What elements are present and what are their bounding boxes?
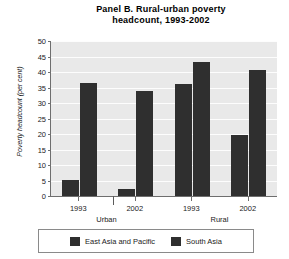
x-tick-label: 2002 xyxy=(239,204,256,213)
y-tick-label: 30 xyxy=(38,99,46,108)
y-tick-label: 15 xyxy=(38,145,46,154)
y-axis-title: Poverty headcount (per cent) xyxy=(16,37,23,187)
y-tick-label: 25 xyxy=(38,114,46,123)
legend-label-south-asia: South Asia xyxy=(186,237,222,246)
x-group-label: Urban xyxy=(96,215,116,224)
bar xyxy=(231,135,248,196)
bar xyxy=(249,70,266,196)
y-tick-label: 10 xyxy=(38,161,46,170)
x-tick-mark xyxy=(191,196,192,201)
legend-item-east-asia-and-pacific: East Asia and Pacific xyxy=(70,237,155,246)
legend-swatch-east-asia-and-pacific xyxy=(70,237,80,246)
bar xyxy=(175,84,192,196)
legend-item-south-asia: South Asia xyxy=(171,237,222,246)
y-tick-label: 20 xyxy=(38,130,46,139)
y-tick-label: 40 xyxy=(38,68,46,77)
bar xyxy=(193,62,210,196)
y-tick-label: 5 xyxy=(42,176,46,185)
bar xyxy=(80,83,97,196)
x-tick-label: 1993 xyxy=(70,204,87,213)
bar xyxy=(62,180,79,196)
x-tick-mark xyxy=(135,196,136,201)
bar xyxy=(136,91,153,196)
chart-title: Panel B. Rural-urban poverty headcount, … xyxy=(46,4,276,26)
legend-swatch-south-asia xyxy=(171,237,181,246)
bar-series-container xyxy=(51,41,277,196)
x-tick-label: 2002 xyxy=(126,204,143,213)
chart-title-line-2: headcount, 1993-2002 xyxy=(46,15,276,26)
plot-area: 05101520253035404550 xyxy=(50,41,277,197)
y-tick-label: 35 xyxy=(38,83,46,92)
y-tick-label: 0 xyxy=(42,192,46,201)
x-tick-mark xyxy=(248,196,249,201)
x-tick-mark xyxy=(78,196,79,201)
x-group-label: Rural xyxy=(211,215,229,224)
legend-label-east-asia-and-pacific: East Asia and Pacific xyxy=(85,237,155,246)
group-separator xyxy=(113,196,114,205)
y-tick-label: 45 xyxy=(38,52,46,61)
bar xyxy=(118,189,135,196)
x-tick-label: 1993 xyxy=(183,204,200,213)
y-tick-label: 50 xyxy=(38,37,46,46)
chart-title-line-1: Panel B. Rural-urban poverty xyxy=(96,4,226,14)
y-tick-mark xyxy=(48,196,51,197)
chart-figure: Panel B. Rural-urban poverty headcount, … xyxy=(0,0,289,259)
chart-legend: East Asia and Pacific South Asia xyxy=(38,229,254,253)
